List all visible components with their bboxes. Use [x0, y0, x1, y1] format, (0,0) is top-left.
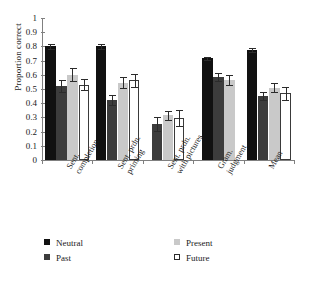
error-bar	[229, 75, 230, 85]
error-bar-cap-upper	[81, 79, 88, 80]
y-tick-label: 0.8	[26, 42, 37, 51]
legend-swatch-icon	[44, 254, 50, 260]
error-bar-cap-lower	[226, 85, 233, 86]
y-axis-title: Proportion correct	[13, 2, 23, 112]
x-tick	[143, 160, 144, 164]
error-bar-cap-lower	[59, 92, 66, 93]
error-bar	[135, 74, 136, 87]
bar-neutral	[45, 46, 56, 160]
legend-label: Future	[186, 253, 210, 263]
error-bar	[274, 83, 275, 92]
error-bar-cap-lower	[282, 100, 289, 101]
error-bar-cap-lower	[81, 90, 88, 91]
error-bar-cap-upper	[249, 48, 256, 49]
error-bar-cap-lower	[271, 92, 278, 93]
error-bar-cap-lower	[154, 131, 161, 132]
error-bar-cap-upper	[215, 73, 222, 74]
bar-neutral	[247, 50, 258, 160]
error-bar-cap-lower	[109, 105, 116, 106]
error-bar-cap-upper	[271, 83, 278, 84]
error-bar	[112, 95, 113, 105]
bar-past	[107, 100, 118, 160]
error-bar	[123, 77, 124, 88]
y-tick-label: 0	[33, 156, 38, 165]
bar-neutral	[202, 58, 213, 160]
bar-past	[258, 96, 269, 160]
y-tick-label: 0.6	[26, 70, 37, 79]
error-bar-cap-upper	[260, 92, 267, 93]
x-tick	[42, 160, 43, 164]
x-tick	[92, 160, 93, 164]
error-bar-cap-lower	[204, 60, 211, 61]
error-bar-cap-lower	[131, 87, 138, 88]
y-tick-label: 0.7	[26, 56, 37, 65]
error-bar	[61, 80, 62, 92]
error-bar-cap-lower	[98, 49, 105, 50]
error-bar-cap-lower	[176, 126, 183, 127]
legend-label: Present	[186, 238, 213, 248]
error-bar-cap-lower	[165, 120, 172, 121]
error-bar-cap-upper	[109, 95, 116, 96]
error-bar-cap-lower	[48, 49, 55, 50]
legend-label: Neutral	[56, 238, 83, 248]
error-bar-cap-upper	[282, 87, 289, 88]
y-tick-label: 0.4	[26, 99, 37, 108]
error-bar-cap-upper	[165, 111, 172, 112]
chart-legend: NeutralPastPresentFuture	[44, 238, 274, 272]
error-bar-cap-upper	[59, 80, 66, 81]
bar-future	[280, 93, 291, 160]
legend-item-future[interactable]: Future	[174, 253, 210, 264]
error-bar-cap-upper	[48, 44, 55, 45]
error-bar-cap-upper	[226, 75, 233, 76]
x-tick	[193, 160, 194, 164]
legend-item-past[interactable]: Past	[44, 253, 71, 264]
error-bar	[218, 73, 219, 82]
x-tick	[294, 160, 295, 164]
y-tick-label: 1	[33, 14, 38, 23]
legend-swatch-icon	[174, 254, 180, 260]
error-bar	[72, 68, 73, 81]
error-bar	[168, 111, 169, 120]
y-tick-label: 0.2	[26, 127, 37, 136]
y-tick-label: 0.9	[26, 28, 37, 37]
error-bar-cap-lower	[260, 100, 267, 101]
error-bar-cap-lower	[249, 52, 256, 53]
error-bar-cap-upper	[131, 74, 138, 75]
bar-group	[202, 18, 235, 160]
bar-past	[56, 86, 67, 160]
error-bar-cap-upper	[120, 77, 127, 78]
error-bar-cap-upper	[70, 68, 77, 69]
error-bar	[179, 110, 180, 126]
error-bar	[263, 92, 264, 100]
error-bar-cap-lower	[120, 88, 127, 89]
bar-group	[247, 18, 291, 160]
error-bar-cap-upper	[176, 110, 183, 111]
error-bar-cap-lower	[215, 81, 222, 82]
legend-item-neutral[interactable]: Neutral	[44, 238, 83, 249]
bar-chart-figure: Proportion correct 00.10.20.30.40.50.60.…	[0, 0, 316, 281]
legend-label: Past	[56, 253, 71, 263]
y-tick-label: 0.5	[26, 85, 37, 94]
legend-swatch-icon	[44, 239, 50, 245]
y-tick-label: 0.3	[26, 113, 37, 122]
error-bar-cap-upper	[98, 44, 105, 45]
error-bar-cap-upper	[154, 117, 161, 118]
error-bar	[157, 117, 158, 131]
y-tick-label: 0.1	[26, 141, 37, 150]
legend-swatch-icon	[174, 239, 180, 245]
x-tick	[244, 160, 245, 164]
error-bar-cap-upper	[204, 57, 211, 58]
error-bar	[286, 87, 287, 100]
error-bar	[84, 79, 85, 90]
error-bar-cap-lower	[70, 81, 77, 82]
legend-item-present[interactable]: Present	[174, 238, 213, 249]
bar-past	[213, 77, 224, 160]
